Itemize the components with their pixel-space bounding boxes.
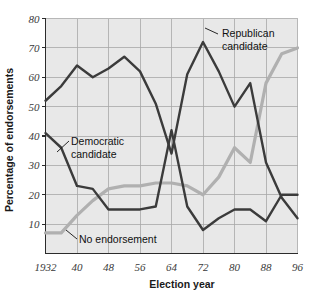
democratic-candidate-label-line2: candidate xyxy=(71,148,117,160)
y-tick-30: 30 xyxy=(28,159,41,171)
y-tick-60: 60 xyxy=(29,71,41,83)
x-tick-1980: 80 xyxy=(229,261,241,273)
x-tick-1956: 56 xyxy=(135,261,147,273)
y-tick-40: 40 xyxy=(29,130,41,142)
x-tick-1996: 96 xyxy=(292,261,304,273)
x-tick-1948: 48 xyxy=(103,261,115,273)
x-tick-1972: 72 xyxy=(198,261,210,273)
chart-container: 1020304050607080 19324048566472808896 Pe… xyxy=(0,0,319,300)
y-tick-80: 80 xyxy=(29,13,41,25)
x-tick-1964: 64 xyxy=(166,261,178,273)
republican-candidate-label-line2: candidate xyxy=(222,40,268,52)
republican-candidate-label-line1: Republican xyxy=(222,27,275,39)
y-tick-10: 10 xyxy=(29,218,41,230)
no-endorsement-label: No endorsement xyxy=(79,233,157,245)
y-tick-50: 50 xyxy=(29,101,41,113)
x-tick-1988: 88 xyxy=(261,261,273,273)
y-axis-title: Percentage of endorsements xyxy=(3,68,15,212)
x-axis-title: Election year xyxy=(149,278,214,290)
democratic-candidate-label-line1: Democratic xyxy=(71,135,124,147)
x-tick-1940: 40 xyxy=(72,261,84,273)
x-tick-1932: 1932 xyxy=(35,261,58,273)
y-tick-70: 70 xyxy=(29,42,41,54)
y-tick-20: 20 xyxy=(29,189,41,201)
x-axis-tick-labels: 19324048566472808896 xyxy=(35,261,304,273)
endorsements-line-chart: 1020304050607080 19324048566472808896 Pe… xyxy=(0,0,319,300)
